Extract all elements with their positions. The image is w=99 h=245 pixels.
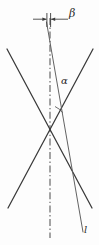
beta-label: β (69, 8, 75, 19)
diagram-svg (0, 0, 99, 245)
figure-canvas: β α l (0, 0, 99, 245)
line-l-label: l (84, 225, 87, 235)
alpha-label: α (61, 76, 68, 86)
beta-arrow-left-head (42, 18, 46, 21)
beta-arrow-right-head (51, 18, 55, 21)
